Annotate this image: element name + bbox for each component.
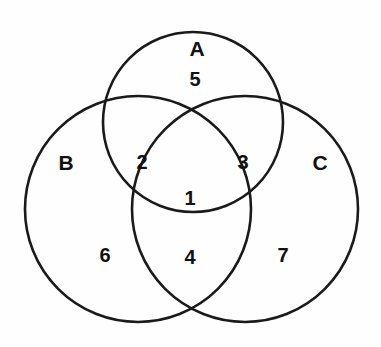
region-label-b-only: 6: [99, 245, 110, 265]
region-label-ab: 2: [136, 152, 147, 172]
region-label-abc: 1: [184, 188, 195, 208]
set-label-a: A: [189, 38, 204, 59]
set-label-b: B: [58, 152, 73, 173]
region-label-a-only: 5: [189, 69, 200, 89]
region-label-c-only: 7: [277, 245, 288, 265]
venn-diagram-figure: A B C 1 2 3 4 5 6 7: [0, 0, 381, 347]
region-label-bc: 4: [184, 247, 195, 267]
set-label-c: C: [312, 152, 327, 173]
region-label-ac: 3: [237, 152, 248, 172]
